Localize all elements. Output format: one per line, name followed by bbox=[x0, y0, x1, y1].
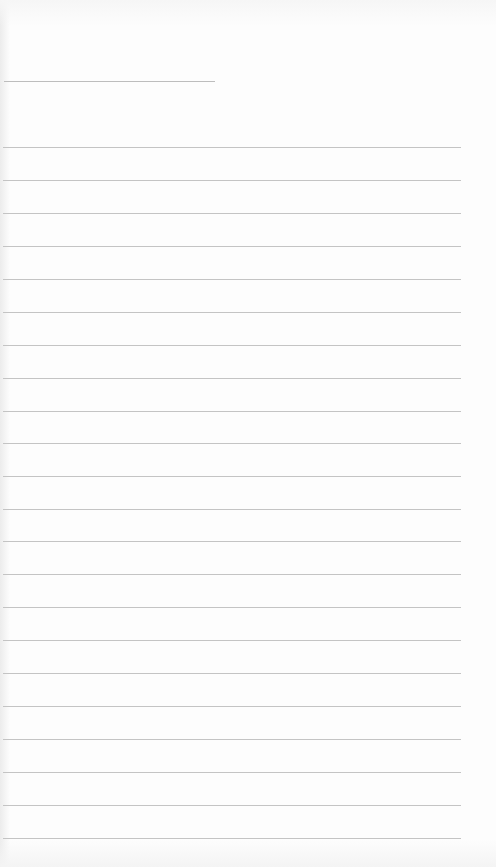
ruled-line bbox=[3, 411, 461, 412]
ruled-line bbox=[3, 246, 461, 247]
ruled-line bbox=[3, 805, 461, 806]
header-rule-line bbox=[4, 81, 215, 82]
lined-paper-page bbox=[0, 0, 496, 867]
ruled-line bbox=[3, 279, 461, 280]
ruled-line bbox=[3, 772, 461, 773]
ruled-line bbox=[3, 443, 461, 444]
ruled-line bbox=[3, 180, 461, 181]
ruled-line bbox=[3, 541, 461, 542]
ruled-line bbox=[3, 509, 461, 510]
ruled-line bbox=[3, 706, 461, 707]
ruled-line bbox=[3, 607, 461, 608]
ruled-line bbox=[3, 476, 461, 477]
ruled-line bbox=[3, 673, 461, 674]
ruled-line bbox=[3, 213, 461, 214]
ruled-line bbox=[3, 739, 461, 740]
page-top-edge bbox=[0, 0, 496, 26]
ruled-line bbox=[3, 147, 461, 148]
ruled-line bbox=[3, 312, 461, 313]
ruled-line bbox=[3, 574, 461, 575]
ruled-line bbox=[3, 838, 461, 839]
ruled-line bbox=[3, 345, 461, 346]
ruled-line bbox=[3, 378, 461, 379]
ruled-line bbox=[3, 640, 461, 641]
